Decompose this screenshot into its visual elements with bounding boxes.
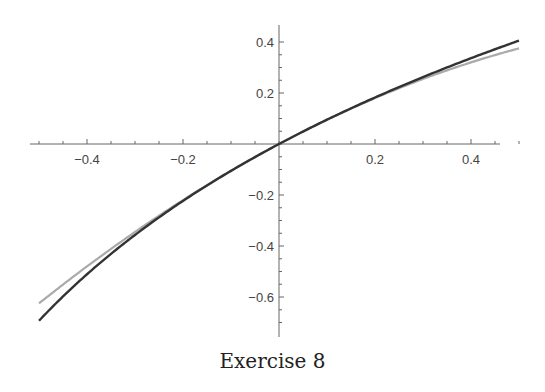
y-tick-label: −0.4 — [248, 239, 274, 254]
y-tick-label: −0.6 — [248, 290, 274, 305]
y-tick-label: 0.4 — [256, 35, 274, 50]
x-tick-label: 0.2 — [366, 152, 384, 167]
x-tick-label: 0.4 — [462, 152, 480, 167]
y-tick-label: 0.2 — [256, 86, 274, 101]
x-tick-label: −0.4 — [74, 152, 100, 167]
chart: −0.4−0.20.20.40.40.2−0.2−0.4−0.6 — [0, 0, 545, 392]
caption: Exercise 8 — [0, 349, 545, 373]
y-tick-label: −0.2 — [248, 188, 274, 203]
x-tick-label: −0.2 — [170, 152, 196, 167]
